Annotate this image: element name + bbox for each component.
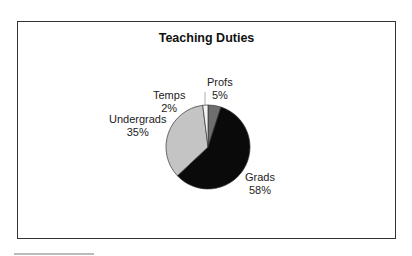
label-profs: Profs 5%	[207, 76, 233, 102]
label-profs-name: Profs	[207, 76, 233, 89]
label-undergrads-name: Undergrads	[109, 113, 166, 126]
label-grads-name: Grads	[245, 171, 275, 184]
divider-line	[14, 253, 94, 255]
label-profs-pct: 5%	[207, 89, 233, 102]
label-temps: Temps 2%	[153, 89, 185, 115]
label-grads: Grads 58%	[245, 171, 275, 197]
pie-chart	[0, 0, 412, 256]
label-temps-name: Temps	[153, 89, 185, 102]
label-grads-pct: 58%	[245, 184, 275, 197]
label-undergrads: Undergrads 35%	[109, 113, 166, 139]
label-undergrads-pct: 35%	[109, 126, 166, 139]
